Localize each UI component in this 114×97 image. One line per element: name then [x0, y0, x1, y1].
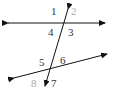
- angle-label-8: 8: [31, 78, 37, 89]
- diagram-canvas: [0, 0, 114, 97]
- angle-label-7: 7: [51, 78, 57, 89]
- transversal-line: [45, 9, 68, 86]
- angle-label-2: 2: [71, 6, 77, 17]
- angle-label-6: 6: [60, 55, 66, 66]
- angle-label-4: 4: [48, 27, 54, 38]
- angle-label-1: 1: [51, 6, 57, 17]
- angle-label-5: 5: [39, 57, 45, 68]
- angle-label-3: 3: [68, 27, 74, 38]
